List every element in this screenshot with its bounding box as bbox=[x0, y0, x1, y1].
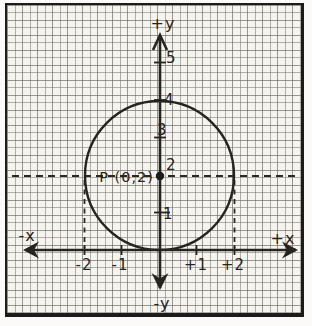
y-axis-negative-label: -y bbox=[154, 294, 171, 313]
x-axis-negative-label: -x bbox=[18, 226, 35, 245]
center-point-dot bbox=[156, 172, 164, 180]
x-axis-positive-label: +x bbox=[271, 229, 296, 248]
y-tick-label-5: 5 bbox=[166, 49, 177, 67]
circle-diagram: +y -y -x +x 5 4 3 2 1 -2 -1 +1 +2 P (0,2… bbox=[0, 0, 312, 326]
y-tick-label-1: 1 bbox=[163, 205, 174, 223]
x-tick-label-neg1: -1 bbox=[112, 256, 129, 274]
x-tick-label-pos2: +2 bbox=[221, 256, 245, 274]
point-label: P (0,2) bbox=[99, 169, 154, 185]
y-tick-label-2: 2 bbox=[166, 156, 177, 174]
y-axis-positive-label: +y bbox=[151, 14, 176, 33]
y-tick-label-3: 3 bbox=[157, 121, 168, 139]
y-tick-label-4: 4 bbox=[164, 91, 175, 109]
x-tick-label-neg2: -2 bbox=[76, 256, 93, 274]
x-tick-label-pos1: +1 bbox=[184, 256, 208, 274]
